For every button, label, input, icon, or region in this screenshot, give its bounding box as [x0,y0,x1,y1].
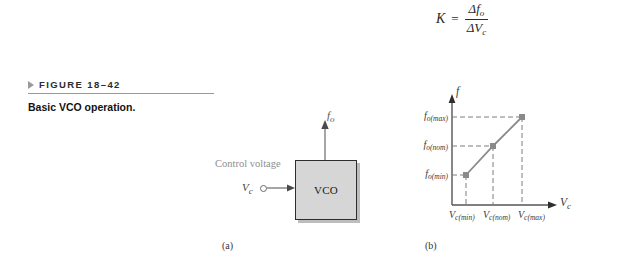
figure-number: FIGURE 18–42 [39,79,121,90]
arrow-right-icon [287,185,295,192]
x-tick-label-vc-max: Vc(max) [518,209,545,222]
panel-b: f Vc fo(max) fo(nom) fo(min) Vc(min) Vc(… [400,85,625,260]
y-tick-label-fo-max: fo(max) [404,110,448,123]
equation-lhs: K [436,11,445,27]
input-subscript: c [249,186,253,196]
y-tick-label-fo-min: fo(min) [404,168,448,181]
figure-header: FIGURE 18–42 [28,79,214,94]
vco-block: VCO [295,160,357,220]
x-tick-0-subscript: c(min) [455,213,475,222]
data-point-vc-nom [490,143,496,149]
input-variable: V [242,181,249,193]
y-tick-1-subscript: o(nom) [426,143,448,152]
y-tick-0-subscript: o(max) [427,114,448,123]
control-voltage-label: Control voltage [215,158,281,169]
y-tick-label-fo-nom: fo(nom) [404,139,448,152]
x-axis-arrow-icon [548,202,557,209]
y-tick-2-subscript: o(min) [428,172,448,181]
x-tick-1-subscript: c(nom) [489,213,510,222]
x-axis-title: Vc [560,196,571,211]
input-variable-label: Vc [242,181,253,196]
x-tick-2-subscript: c(max) [524,213,545,222]
equation-fraction: Δfo ΔVc [465,2,489,37]
y-axis-arrow-icon [449,94,456,103]
x-tick-label-vc-min: Vc(min) [449,209,475,222]
numerator-subscript: o [480,8,485,18]
figure-page: K = Δfo ΔVc FIGURE 18–42 Basic VCO opera… [0,0,633,271]
equation-k: K = Δfo ΔVc [436,2,488,37]
terminal-circle-icon [260,185,267,192]
x-axis-title-subscript: c [567,201,571,211]
figure-title: Basic VCO operation. [28,101,214,113]
panel-a: Control voltage Vc fo VCO (a) [215,100,390,260]
data-point-vc-min [463,172,469,178]
output-variable-label: fo [327,109,335,124]
figure-caption-block: FIGURE 18–42 Basic VCO operation. [28,79,214,113]
x-tick-label-vc-nom: Vc(nom) [483,209,510,222]
panel-b-label: (b) [425,240,437,251]
panel-a-label: (a) [222,240,233,251]
equation-equals: = [451,11,458,27]
denominator-subscript: c [482,26,486,36]
output-subscript: o [330,114,335,124]
x-axis-title-variable: V [560,196,567,208]
y-axis-title: f [456,85,459,97]
triangle-right-icon [28,81,34,89]
equation-numerator: Δfo [467,2,487,18]
vco-block-label: VCO [314,184,338,196]
data-point-vc-max [519,114,525,120]
equation-denominator: ΔVc [465,21,489,37]
